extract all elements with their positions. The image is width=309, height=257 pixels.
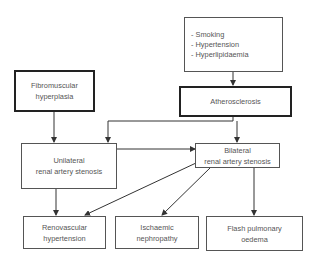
node-label: oedema	[227, 234, 282, 245]
node-label: Fibromuscular	[31, 80, 78, 91]
node-bilateral-ras: Bilateral renal artery stenosis	[195, 143, 280, 168]
node-risk-factors: - Smoking - Hypertension - Hyperlipidaem…	[184, 17, 283, 72]
node-label: Unilateral	[36, 155, 103, 166]
node-label: Flash pulmonary	[227, 223, 282, 234]
edge-atherosclerosis-split	[108, 116, 233, 142]
node-label: Renovascular	[42, 222, 87, 233]
node-label: Bilateral	[204, 145, 271, 156]
node-label: renal artery stenosis	[204, 156, 271, 167]
node-label: Ischaemic	[136, 222, 177, 233]
risk-factor-item: - Hyperlipidaemia	[191, 50, 249, 60]
node-renovascular-hypertension: Renovascular hypertension	[23, 216, 106, 249]
node-ischaemic-nephropathy: Ischaemic nephropathy	[115, 216, 199, 249]
node-label: Atherosclerosis	[210, 96, 261, 107]
risk-factor-item: - Smoking	[191, 30, 249, 40]
risk-factor-list: - Smoking - Hypertension - Hyperlipidaem…	[191, 30, 249, 60]
node-label: nephropathy	[136, 233, 177, 244]
diagram-canvas: - Smoking - Hypertension - Hyperlipidaem…	[0, 0, 309, 257]
node-atherosclerosis: Atherosclerosis	[179, 86, 292, 117]
node-flash-pulmonary-oedema: Flash pulmonary oedema	[206, 216, 303, 251]
risk-factor-item: - Hypertension	[191, 40, 249, 50]
node-fibromuscular-hyperplasia: Fibromuscular hyperplasia	[14, 70, 95, 112]
node-unilateral-ras: Unilateral renal artery stenosis	[21, 143, 117, 189]
node-label: hyperplasia	[31, 91, 78, 102]
node-label: renal artery stenosis	[36, 166, 103, 177]
node-label: hypertension	[42, 233, 87, 244]
edge-bilateral-to-ischaemic	[162, 167, 211, 215]
